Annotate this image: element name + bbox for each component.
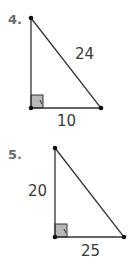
hypotenuse-label: 24 <box>75 45 94 63</box>
leg-label: 20 <box>28 182 47 200</box>
problem-4: 4. 24 10 <box>0 0 140 135</box>
right-triangle-diagram <box>0 135 140 270</box>
problem-5: 5. 20 25 <box>0 135 140 270</box>
base-label: 10 <box>57 112 76 130</box>
base-label: 25 <box>81 242 100 260</box>
